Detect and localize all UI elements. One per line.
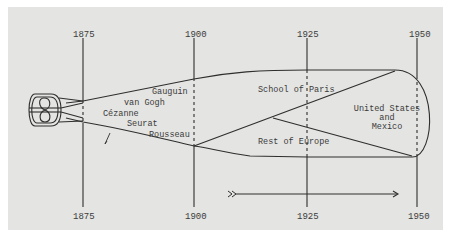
year-label-top-1950: 1950 bbox=[409, 31, 431, 40]
year-label-top-1925: 1925 bbox=[297, 31, 319, 40]
artist-van-gogh: van Gogh bbox=[124, 99, 165, 108]
region-us-line3: Mexico bbox=[352, 123, 422, 132]
artist-rousseau: Rousseau bbox=[149, 131, 190, 140]
year-label-bottom-1875: 1875 bbox=[73, 213, 95, 222]
region-school-of-paris: School of Paris bbox=[258, 86, 335, 95]
year-label-top-1900: 1900 bbox=[185, 31, 207, 40]
year-label-bottom-1925: 1925 bbox=[297, 213, 319, 222]
year-label-bottom-1900: 1900 bbox=[185, 213, 207, 222]
year-label-top-1875: 1875 bbox=[73, 31, 95, 40]
year-label-bottom-1950: 1950 bbox=[408, 213, 430, 222]
artist-seurat: Seurat bbox=[127, 120, 158, 129]
artist-gauguin: Gauguin bbox=[152, 88, 188, 97]
artist-cezanne: Cézanne bbox=[103, 110, 139, 119]
region-rest-of-europe: Rest of Europe bbox=[258, 138, 329, 147]
origin-knot bbox=[29, 94, 83, 126]
